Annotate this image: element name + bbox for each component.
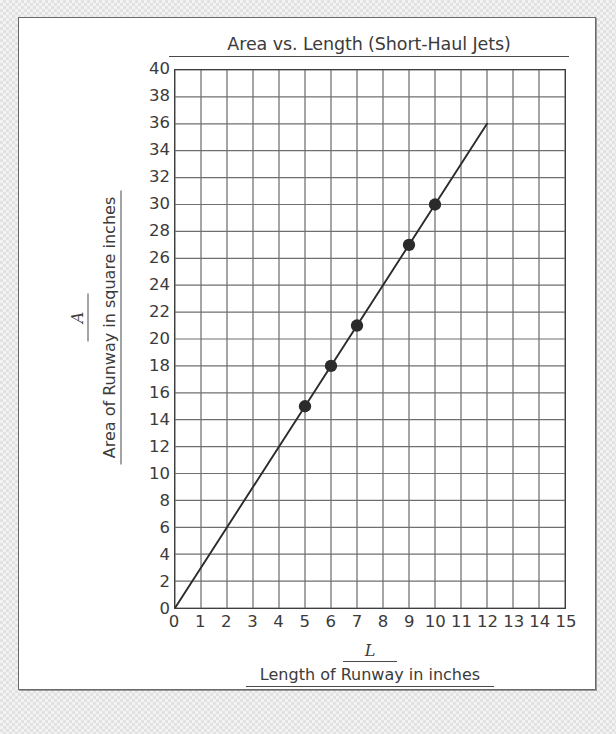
y-tick-label: 16 bbox=[136, 385, 170, 402]
y-axis-variable: A bbox=[68, 288, 87, 348]
y-tick-label: 2 bbox=[136, 574, 170, 591]
scanned-page-background: Area vs. Length (Short-Haul Jets) 024681… bbox=[0, 0, 616, 734]
y-tick-label: 6 bbox=[136, 520, 170, 537]
x-axis-variable-text: L bbox=[343, 641, 398, 662]
y-tick-label: 38 bbox=[136, 88, 170, 105]
chart-figure: Area vs. Length (Short-Haul Jets) 024681… bbox=[19, 18, 597, 691]
chart-title: Area vs. Length (Short-Haul Jets) bbox=[169, 34, 569, 57]
plot-area bbox=[174, 69, 566, 609]
y-tick-label: 22 bbox=[136, 304, 170, 321]
y-tick-label: 32 bbox=[136, 169, 170, 186]
x-axis-title: Length of Runway in inches bbox=[174, 665, 566, 684]
y-tick-label: 30 bbox=[136, 196, 170, 213]
y-tick-label: 10 bbox=[136, 466, 170, 483]
x-axis-tick-labels: 0123456789101112131415 bbox=[174, 614, 566, 638]
y-tick-label: 36 bbox=[136, 115, 170, 132]
y-tick-label: 12 bbox=[136, 439, 170, 456]
y-tick-label: 24 bbox=[136, 277, 170, 294]
y-axis-variable-text: A bbox=[68, 294, 89, 342]
x-axis-title-text: Length of Runway in inches bbox=[246, 665, 494, 687]
data-series bbox=[175, 70, 565, 608]
y-axis-title: Area of Runway in square inches bbox=[100, 178, 119, 478]
y-tick-label: 40 bbox=[136, 61, 170, 78]
y-axis-title-text: Area of Runway in square inches bbox=[100, 191, 122, 465]
y-tick-label: 18 bbox=[136, 358, 170, 375]
y-tick-label: 8 bbox=[136, 493, 170, 510]
y-tick-label: 26 bbox=[136, 250, 170, 267]
y-axis-tick-labels: 0246810121416182022242628303234363840 bbox=[126, 69, 170, 609]
y-tick-label: 28 bbox=[136, 223, 170, 240]
y-tick-label: 20 bbox=[136, 331, 170, 348]
x-tick-label: 15 bbox=[551, 614, 581, 631]
worksheet-paper: Area vs. Length (Short-Haul Jets) 024681… bbox=[18, 17, 596, 690]
y-tick-label: 14 bbox=[136, 412, 170, 429]
y-tick-label: 34 bbox=[136, 142, 170, 159]
y-tick-label: 4 bbox=[136, 547, 170, 564]
x-axis-variable: L bbox=[174, 641, 566, 660]
